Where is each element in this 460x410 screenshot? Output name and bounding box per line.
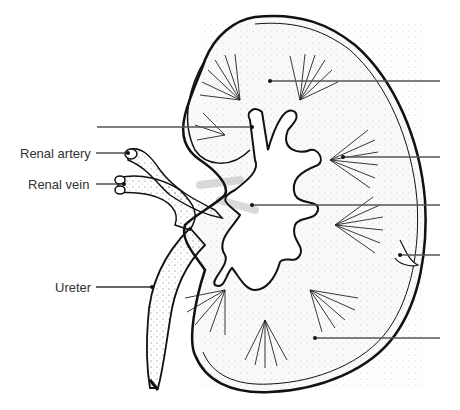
renal-vein-vessel — [118, 176, 195, 230]
label-renal-artery: Renal artery — [20, 147, 91, 160]
label-ureter: Ureter — [55, 281, 91, 294]
label-leaders — [96, 153, 152, 287]
kidney-diagram — [0, 0, 460, 410]
label-renal-vein: Renal vein — [28, 178, 89, 191]
